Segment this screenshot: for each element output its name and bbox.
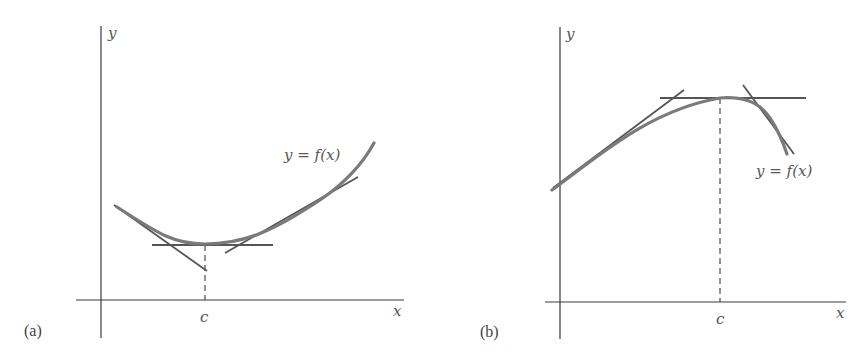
tick-label-c-a: c [200, 308, 209, 326]
x-axis-label-b: x [836, 304, 845, 322]
curve-f-b [552, 98, 787, 190]
panel-a: y x c (a) y = f(x) [24, 24, 404, 340]
x-axis-label-a: x [393, 302, 402, 320]
y-axis-label-a: y [107, 24, 117, 42]
curve-label-b: y = f(x) [755, 162, 812, 180]
panel-b: y x c (b) y = f(x) [480, 25, 846, 341]
y-axis-label-b: y [565, 25, 575, 43]
right-tangent-b [743, 85, 794, 154]
tick-label-c-b: c [716, 310, 725, 328]
right-tangent-a [225, 177, 358, 253]
panel-label-a: (a) [24, 322, 42, 340]
figure: y x c (a) y = f(x) y x c (b) y = f(x) [0, 0, 865, 359]
panel-label-b: (b) [480, 323, 499, 341]
curve-label-a: y = f(x) [283, 146, 340, 164]
